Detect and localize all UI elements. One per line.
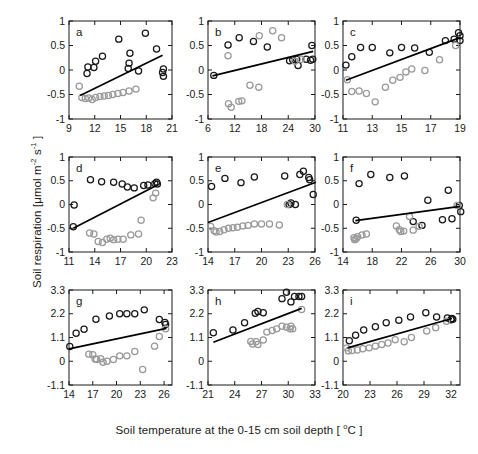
data-point-light [390,77,396,83]
data-point-light [135,231,141,237]
data-point-dark [73,330,79,336]
x-tick-label: 6 [205,122,211,134]
x-tick-label: 24 [282,122,294,134]
data-point-dark [99,53,105,59]
y-tick-label: -1 [195,246,204,258]
data-point-light [132,348,138,354]
data-point-dark [458,209,464,215]
data-point-light [401,339,407,345]
data-point-dark [356,181,362,187]
data-point-light [151,343,157,349]
data-point-dark [407,314,413,320]
x-tick-label: 23 [364,388,376,400]
y-tick-label: 1 [198,15,204,27]
x-tick-label: 21 [166,122,178,134]
x-tick-label: 9 [66,122,72,134]
data-point-dark [127,50,133,56]
data-point-dark [210,330,216,336]
panel-letter: i [350,295,353,307]
x-tick-label: 23 [134,388,146,400]
data-point-light [110,356,116,362]
data-point-dark [251,174,257,180]
y-axis-label-sup-m2: -2 [29,158,38,165]
data-point-dark [372,324,378,330]
fit-line [212,51,313,75]
data-point-light [403,69,409,75]
panel-letter: h [215,295,221,307]
data-point-dark [383,320,389,326]
x-tick-label: 11 [338,122,349,134]
x-tick-label: 26 [309,255,321,267]
x-tick-label: 20 [140,255,152,267]
panel-c: 1113151719-1-0.500.51c [321,15,466,134]
data-point-light [366,345,372,351]
data-point-light [372,99,378,105]
y-tick-label: 0 [59,64,65,76]
x-tick-label: 32 [445,388,457,400]
data-point-dark [124,184,130,190]
x-tick-label: 24 [229,388,241,400]
y-tick-label: 1.1 [50,331,65,343]
y-tick-label: 0.5 [324,174,339,186]
x-tick-label: 30 [454,255,466,267]
data-point-dark [387,174,393,180]
plot-frame [208,21,315,119]
data-point-light [270,28,276,34]
data-point-dark [117,311,123,317]
data-point-dark [87,177,93,183]
data-point-light [256,33,262,39]
y-tick-label: -1 [330,113,339,125]
y-tick-label: 1.1 [189,331,204,343]
y-tick-label: 0 [198,198,204,210]
data-point-dark [93,316,99,322]
panel-letter: c [350,26,356,38]
panel-d: 1114172023-1-0.500.51d [47,151,178,267]
y-tick-label: 0 [198,355,204,367]
soil-respiration-figure: Soil respiration [μmol m-2 s-1 ] 9121518… [0,0,478,454]
y-axis-label-post: ] [31,136,43,143]
panel-e: 1417202326-1-0.500.51e [186,151,321,267]
data-point-light [385,340,391,346]
y-tick-label: -0.5 [186,88,204,100]
data-point-light [260,337,266,343]
data-point-light [247,82,253,88]
y-axis-label: Soil respiration [μmol m-2 s-1 ] [29,82,43,342]
data-point-dark [368,171,374,177]
data-point-light [436,57,442,63]
x-tick-label: 20 [111,388,123,400]
data-point-light [105,92,111,98]
data-point-dark [238,180,244,186]
y-tick-label: 0.5 [50,174,65,186]
panel-letter: d [76,162,82,174]
data-point-light [410,227,416,233]
panel-i: 2023262932-1.101.12.23.3i [321,284,460,400]
data-point-light [276,222,282,228]
data-point-dark [230,327,236,333]
x-tick-label: 23 [282,255,294,267]
data-point-dark [208,183,214,189]
data-point-dark [282,173,288,179]
x-tick-label: 18 [366,255,378,267]
data-point-dark [412,45,418,51]
data-point-dark [425,197,431,203]
panel-h: 2124273033-1.101.12.23.3h [186,284,321,400]
data-point-light [266,221,272,227]
y-tick-label: 1 [59,151,65,163]
y-tick-label: -1 [195,113,204,125]
data-point-light [124,353,130,359]
x-tick-label: 17 [87,388,99,400]
x-tick-label: 11 [64,255,75,267]
data-point-light [363,90,369,96]
data-point-light [422,67,428,73]
x-tick-label: 26 [391,388,403,400]
y-tick-label: 2.2 [324,307,339,319]
panel-letter: e [215,162,221,174]
data-point-dark [225,42,231,48]
x-tick-label: 17 [115,255,127,267]
y-tick-label: 0 [59,355,65,367]
data-point-dark [401,173,407,179]
y-tick-label: -0.5 [47,222,65,234]
x-tick-label: 18 [256,122,268,134]
data-point-light [397,74,403,80]
data-point-dark [84,70,90,76]
